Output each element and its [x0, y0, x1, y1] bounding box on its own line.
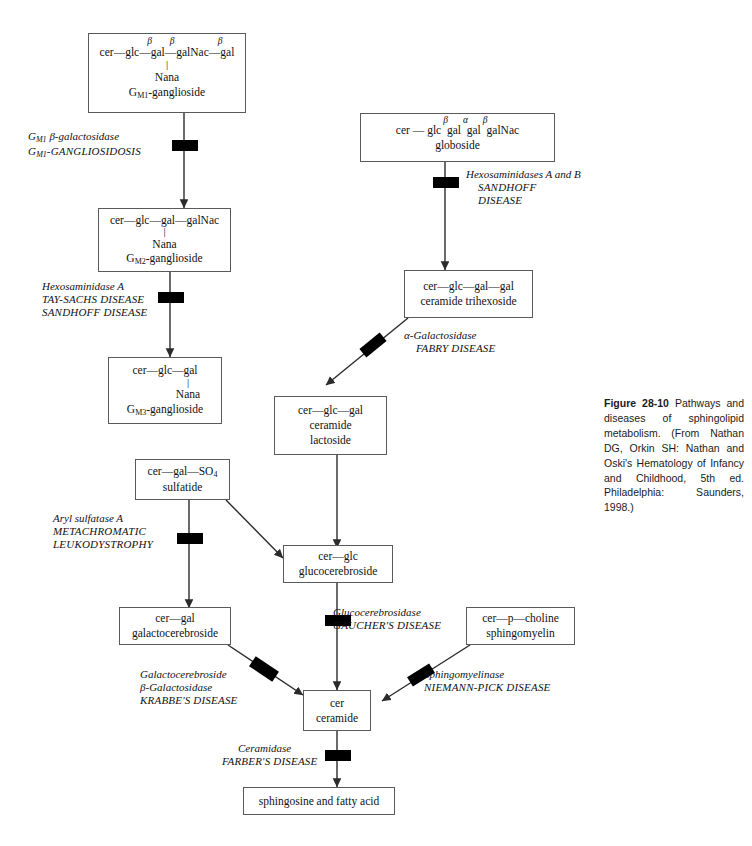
step-ceramidase: Ceramidase FARBER'S DISEASE: [222, 742, 317, 768]
globoside-chain: cer — glcβ galα galβ galNac: [396, 123, 519, 138]
node-sphingomyelin: cer—p—choline sphingomyelin: [466, 607, 575, 645]
block-bar-hexosaminidases-ab: [433, 177, 459, 188]
node-gm2-ganglioside: cer—glc—gal—galNac | Nana GM2-gangliosid…: [98, 208, 231, 272]
step-alpha-galactosidase: α-Galactosidase FABRY DISEASE: [404, 329, 496, 355]
step-hexosaminidase-a: Hexosaminidase A TAY-SACHS DISEASE SANDH…: [42, 280, 148, 320]
block-bar-alpha-galactosidase: [359, 333, 386, 358]
arrow-sulfatide-to-glucocerebroside: [226, 500, 283, 558]
step-hexosaminidases-a-and-b: Hexosaminidases A and B SANDHOFF DISEASE: [466, 168, 581, 208]
node-gm3-ganglioside: cer—glc—gal | Nana GM3-ganglioside: [108, 357, 222, 424]
step-galactocerebroside-beta-galactosidase: Galactocerebroside β-Galactosidase KRABB…: [140, 668, 238, 708]
hexa-disease-label-1: TAY-SACHS DISEASE: [42, 293, 148, 306]
gaucher-disease-label: GAUCHER'S DISEASE: [333, 619, 441, 632]
galactocerebroside-chain: cer—gal: [155, 611, 195, 626]
mld-enzyme-label: Aryl sulfatase A: [53, 512, 153, 525]
trihexoside-label: ceramide trihexoside: [420, 294, 516, 309]
block-bar-galactocerebroside-beta-galactosidase: [249, 656, 279, 682]
krabbe-disease-label: KRABBE'S DISEASE: [140, 694, 238, 707]
node-galactocerebroside: cer—gal galactocerebroside: [119, 607, 231, 645]
globoside-label: globoside: [435, 138, 480, 153]
farber-enzyme-label: Ceramidase: [222, 742, 317, 755]
sulfatide-chain: cer—gal—SO4: [148, 464, 218, 480]
glucocerebroside-chain: cer—glc: [318, 549, 358, 564]
node-sphingosine-and-fatty-acid: sphingosine and fatty acid: [243, 787, 395, 815]
farber-disease-label: FARBER'S DISEASE: [222, 755, 317, 768]
fabry-enzyme-label: α-Galactosidase: [404, 329, 496, 342]
step-gm1-beta-galactosidase: GM1 β-galactosidase GM1-GANGLIOSIDOSIS: [28, 130, 141, 159]
trihexoside-chain: cer—glc—gal—gal: [423, 279, 514, 294]
ceramide-label: ceramide: [316, 711, 358, 726]
mld-disease-label-2: LEUKODYSTROPHY: [53, 538, 153, 551]
lactoside-chain: cer—glc—gal: [298, 403, 363, 418]
niemannpick-disease-label: NIEMANN-PICK DISEASE: [424, 681, 551, 694]
block-bar-hexosaminidase-a: [158, 292, 184, 303]
gm1-label: GM1-ganglioside: [129, 85, 205, 101]
node-ceramide: cer ceramide: [303, 690, 371, 731]
block-bar-gm1-galactosidase: [172, 140, 198, 151]
lactoside-label-1: ceramide: [309, 418, 351, 433]
krabbe-enzyme-label-1: Galactocerebroside: [140, 668, 238, 681]
figure-caption: Figure 28-10 Pathways and diseases of sp…: [604, 396, 744, 515]
hexab-disease-label-1: SANDHOFF: [466, 181, 581, 194]
figure-label: Figure 28-10: [604, 397, 669, 409]
step-aryl-sulfatase-a: Aryl sulfatase A METACHROMATIC LEUKODYST…: [53, 512, 153, 552]
gaucher-enzyme-label: Glucocerebrosidase: [333, 606, 441, 619]
gm3-label: GM3-ganglioside: [127, 402, 203, 418]
niemannpick-enzyme-label: Sphingomyelinase: [424, 668, 551, 681]
gm2-label: GM2-ganglioside: [126, 251, 202, 267]
node-ceramide-lactoside: cer—glc—gal ceramide lactoside: [274, 396, 387, 455]
step-glucocerebrosidase: Glucocerebrosidase GAUCHER'S DISEASE: [333, 606, 441, 632]
gm1-disease-label: GM1-GANGLIOSIDOSIS: [28, 145, 141, 160]
node-ceramide-trihexoside: cer—glc—gal—gal ceramide trihexoside: [404, 270, 533, 318]
block-bar-ceramidase: [325, 750, 351, 761]
gm2-branch: Nana: [152, 237, 176, 252]
node-globoside: cer — glcβ galα galβ galNac globoside: [360, 113, 555, 162]
node-gm1-ganglioside: cer—glcβ—galβ—galNacβ—gal | Nana GM1-gan…: [88, 33, 246, 113]
hexa-disease-label-2: SANDHOFF DISEASE: [42, 306, 148, 319]
sphingomyelin-chain: cer—p—choline: [482, 611, 559, 626]
gm1-branch: Nana: [155, 70, 179, 85]
node-glucocerebroside: cer—glc glucocerebroside: [283, 545, 393, 583]
krabbe-enzyme-label-2: β-Galactosidase: [140, 681, 238, 694]
gm3-branch-bond: |: [141, 378, 189, 387]
hexab-enzyme-label: Hexosaminidases A and B: [466, 168, 581, 181]
gm1-enzyme-label: GM1 β-galactosidase: [28, 130, 141, 145]
figure-caption-text: Pathways and diseases of sphingolipid me…: [604, 397, 744, 513]
node-sulfatide: cer—gal—SO4 sulfatide: [135, 459, 230, 500]
glucocerebroside-label: glucocerebroside: [299, 564, 378, 579]
hexa-enzyme-label: Hexosaminidase A: [42, 280, 148, 293]
sphingomyelin-label: sphingomyelin: [486, 626, 554, 641]
fabry-disease-label: FABRY DISEASE: [404, 342, 496, 355]
block-bar-aryl-sulfatase-a: [177, 533, 203, 544]
mld-disease-label-1: METACHROMATIC: [53, 525, 153, 538]
step-sphingomyelinase: Sphingomyelinase NIEMANN-PICK DISEASE: [424, 668, 551, 694]
ceramide-chain: cer: [330, 696, 344, 711]
hexab-disease-label-2: DISEASE: [466, 194, 581, 207]
sulfatide-label: sulfatide: [163, 480, 203, 495]
lactoside-label-2: lactoside: [310, 433, 351, 448]
galactocerebroside-label: galactocerebroside: [132, 626, 218, 641]
products-label: sphingosine and fatty acid: [259, 794, 379, 809]
gm3-branch: Nana: [130, 387, 200, 402]
gm1-branch-bond: |: [166, 60, 168, 70]
gm2-branch-bond: |: [163, 227, 165, 236]
